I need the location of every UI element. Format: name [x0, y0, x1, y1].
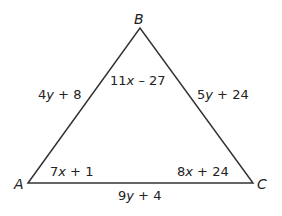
side-ac-label: 9y + 4	[118, 189, 161, 202]
angle-b-label: 11x – 27	[110, 74, 166, 87]
triangle-abc	[28, 28, 253, 183]
angle-a-label: 7x + 1	[50, 165, 93, 178]
angle-c-label: 8x + 24	[177, 165, 229, 178]
triangle-figure	[0, 0, 282, 216]
vertex-c-label: C	[257, 177, 267, 191]
side-bc-label: 5y + 24	[197, 88, 249, 101]
side-ab-label: 4y + 8	[38, 88, 81, 101]
vertex-b-label: B	[134, 12, 144, 26]
vertex-a-label: A	[14, 177, 24, 191]
